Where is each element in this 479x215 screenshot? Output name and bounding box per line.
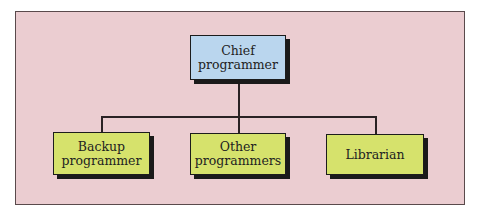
node-label: Librarian (345, 148, 404, 162)
node-label: Chief programmer (198, 44, 278, 72)
node-backup-programmer: Backup programmer (53, 132, 150, 175)
connector-to-librarian (375, 116, 377, 134)
node-label: Backup programmer (61, 140, 141, 168)
node-librarian: Librarian (326, 134, 424, 175)
node-label: Other programmers (195, 140, 281, 168)
node-other-programmers: Other programmers (190, 133, 286, 175)
connector-to-backup (101, 116, 103, 132)
node-chief-programmer: Chief programmer (190, 35, 286, 80)
connector-horizontal-bus (101, 116, 376, 118)
connector-root-trunk (238, 80, 240, 133)
